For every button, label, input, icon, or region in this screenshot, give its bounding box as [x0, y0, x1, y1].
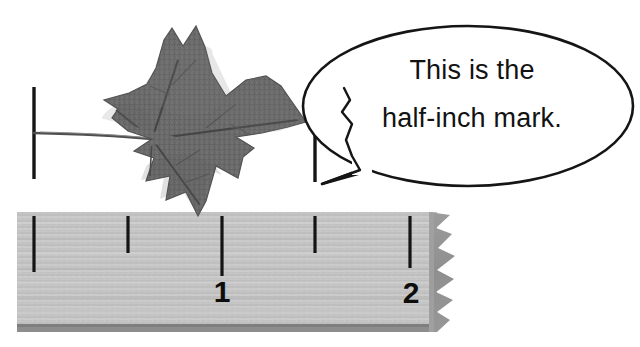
speech-bubble-seam-mask: [352, 58, 372, 175]
illustration-scene: 1 2: [0, 0, 640, 347]
speech-bubble: This is the half-inch mark.: [303, 26, 633, 186]
ruler-numeral-1: 1: [214, 275, 231, 308]
leaf: [34, 26, 306, 216]
figure-canvas: 1 2: [0, 0, 640, 347]
ruler: 1 2: [17, 212, 455, 332]
ruler-bottom-edge-shadow: [17, 324, 437, 327]
ruler-torn-edge-shadow: [429, 212, 434, 332]
speech-bubble-line-1: This is the: [409, 55, 534, 85]
speech-bubble-line-2: half-inch mark.: [382, 103, 562, 133]
ruler-numeral-2: 2: [403, 276, 420, 309]
